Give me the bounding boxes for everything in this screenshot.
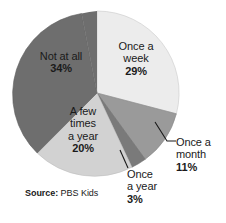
pie-label-once-a-week-line2: week [123, 52, 148, 64]
pie-label-not-at-all-line1: Not at all [40, 50, 82, 62]
pie-callout-once-a-year-line1: Once [127, 168, 153, 180]
pie-callout-once-a-year: Once a year 3% [127, 168, 157, 205]
pie-label-once-a-week: Once a week 29% [108, 40, 164, 77]
source-value: PBS Kids [58, 188, 98, 198]
source-label: Source: [25, 188, 58, 198]
pie-chart-figure: Once a week 29% Not at all 34% A few tim… [0, 0, 226, 223]
pie-label-a-few-times-a-year-line3: a year [68, 130, 98, 142]
pie-callout-once-a-month-line1: Once a [176, 136, 211, 148]
pie-label-a-few-times-a-year-line1: A few [70, 105, 96, 117]
pie-label-not-at-all: Not at all 34% [26, 50, 96, 75]
pie-callout-once-a-year-percent: 3% [127, 193, 157, 205]
pie-callout-once-a-month-percent: 11% [176, 161, 211, 173]
pie-label-not-at-all-percent: 34% [26, 62, 96, 74]
pie-callout-once-a-month-line2: month [176, 148, 206, 160]
pie-label-once-a-week-line1: Once a [119, 40, 154, 52]
pie-label-a-few-times-a-year: A few times a year 20% [54, 105, 112, 154]
pie-label-a-few-times-a-year-line2: times [70, 117, 96, 129]
pie-callout-once-a-month: Once a month 11% [176, 136, 211, 173]
pie-label-once-a-week-percent: 29% [108, 65, 164, 77]
pie-callout-once-a-year-line2: a year [127, 180, 157, 192]
source-attribution: Source: PBS Kids [25, 188, 98, 198]
pie-label-a-few-times-a-year-percent: 20% [54, 142, 112, 154]
